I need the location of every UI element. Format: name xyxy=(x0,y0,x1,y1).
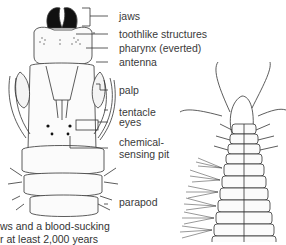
label-palp: palp xyxy=(119,85,139,96)
caption-line-1: ws and a blood-sucking xyxy=(0,220,110,232)
label-antenna: antenna xyxy=(119,57,157,68)
caption-line-2: r at least 2,000 years xyxy=(0,233,98,245)
label-jaws: jaws xyxy=(119,11,140,22)
label-chemical-sensing-1: chemical- xyxy=(119,137,164,148)
label-parapod: parapod xyxy=(119,197,158,208)
label-pharynx: pharynx (everted) xyxy=(119,43,201,54)
label-chemical-sensing-2: sensing pit xyxy=(119,149,169,160)
label-toothlike-structures: toothlike structures xyxy=(119,29,207,40)
label-eyes: eyes xyxy=(119,117,141,128)
